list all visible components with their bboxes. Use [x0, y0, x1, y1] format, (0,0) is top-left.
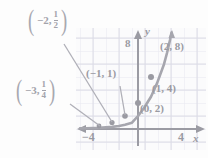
paren-close: ): [61, 10, 67, 30]
fraction-denominator: 2: [54, 20, 59, 30]
math-figure: ( −2, 1 2 ) ( −3, 1 4 ) (−1, 1) (2, 8) (…: [0, 0, 208, 158]
x-axis-label: x: [193, 133, 199, 144]
grid-minor: [76, 28, 206, 150]
point-1: [148, 74, 154, 80]
label-2-8: (2, 8): [160, 41, 184, 52]
callout-x-value: −3,: [24, 84, 41, 96]
label-0-2: (0, 2): [140, 103, 164, 114]
paren-close: ): [49, 80, 55, 100]
x-tick-label-4: 4: [178, 131, 184, 143]
callout-x-value: −2,: [36, 14, 53, 26]
callout-fraction: 1 2: [53, 10, 60, 30]
y-tick-label-8: 8: [125, 38, 131, 49]
fraction-numerator: 1: [42, 80, 47, 89]
paren-open: (: [28, 10, 34, 30]
callout-point-neg2-half: ( −2, 1 2 ): [26, 10, 69, 30]
x-tick-label-neg4: −4: [82, 131, 95, 143]
grid-and-curve: [76, 28, 206, 150]
fraction-denominator: 4: [42, 90, 47, 100]
point-neg2: [109, 120, 114, 125]
label-1-4: (1, 4): [152, 83, 176, 94]
paren-open: (: [16, 80, 22, 100]
callout-fraction: 1 4: [41, 80, 48, 100]
point-neg1: [122, 113, 128, 119]
fraction-numerator: 1: [54, 10, 59, 19]
y-axis-label: y: [145, 26, 150, 37]
coordinate-plane: [76, 28, 206, 150]
point-neg3: [97, 124, 102, 129]
callout-point-neg3-quarter: ( −3, 1 4 ): [14, 80, 57, 100]
label-neg1-1: (−1, 1): [86, 68, 116, 79]
